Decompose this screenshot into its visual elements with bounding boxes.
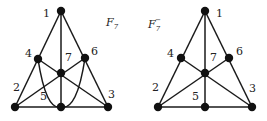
vertex-label-2: 2 — [13, 81, 20, 94]
vertex-5 — [201, 103, 209, 111]
vertex-label-5: 5 — [40, 90, 47, 103]
vertex-3 — [104, 103, 112, 111]
vertex-label-1: 1 — [216, 7, 223, 20]
vertex-label-7: 7 — [65, 51, 72, 64]
vertex-4 — [34, 55, 42, 63]
vertex-label-6: 6 — [236, 45, 243, 58]
diagram-f7: 1467253F7 — [11, 7, 119, 111]
vertex-2 — [154, 103, 162, 111]
vertex-label-4: 4 — [25, 47, 32, 60]
diagram-title: F7 — [105, 16, 119, 31]
diagram-f7-minus: 1467253F7− — [147, 7, 256, 111]
vertex-label-6: 6 — [91, 45, 98, 58]
vertex-label-3: 3 — [108, 88, 115, 101]
fano-diagrams: 1467253F7 1467253F7− — [0, 0, 267, 121]
vertex-label-2: 2 — [152, 81, 159, 94]
vertex-5 — [57, 103, 65, 111]
vertex-label-1: 1 — [43, 7, 50, 20]
vertex-1 — [201, 7, 209, 15]
vertex-3 — [248, 103, 256, 111]
diagram-title: F7− — [147, 16, 161, 33]
vertex-7 — [57, 69, 65, 77]
vertex-2 — [11, 103, 19, 111]
vertex-label-4: 4 — [167, 47, 174, 60]
vertex-1 — [57, 7, 65, 15]
vertex-6 — [81, 54, 89, 62]
vertex-4 — [177, 54, 185, 62]
vertex-label-5: 5 — [192, 90, 199, 103]
vertex-6 — [225, 54, 233, 62]
vertex-label-3: 3 — [249, 82, 256, 95]
vertex-7 — [201, 69, 209, 77]
vertex-label-7: 7 — [210, 51, 217, 64]
